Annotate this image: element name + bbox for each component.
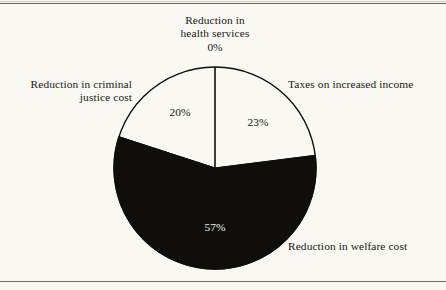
top-rule-ghost (0, 1, 446, 2)
slice-label-criminal-justice-cost: Reduction in criminal justice cost (4, 78, 132, 105)
slice-label-health-services: Reduction in health services (113, 14, 317, 41)
pie-chart-figure: Reduction in health services 0% Reductio… (0, 0, 446, 290)
slice-label-taxes-increased-income: Taxes on increased income (288, 78, 444, 91)
slice-value-taxes-increased-income: 23% (236, 116, 280, 128)
top-divider-rule (0, 3, 446, 4)
bottom-divider-rule (0, 281, 446, 282)
pie-graphic (113, 66, 317, 270)
pie-svg (113, 66, 317, 270)
slice-value-health-services: 0% (113, 41, 317, 53)
slice-label-welfare-cost: Reduction in welfare cost (288, 240, 444, 253)
slice-value-criminal-justice-cost: 20% (158, 106, 202, 118)
slice-value-welfare-cost: 57% (193, 221, 237, 233)
